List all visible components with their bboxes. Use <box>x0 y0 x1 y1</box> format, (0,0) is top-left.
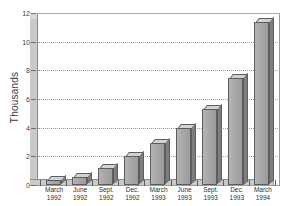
x-axis-tick-mark <box>144 180 145 186</box>
x-axis-tick-mark <box>275 180 276 186</box>
bar <box>176 122 191 185</box>
bar <box>124 150 139 185</box>
y-axis-tick-mark <box>31 99 36 100</box>
x-axis-tick-mark <box>223 180 224 186</box>
y-axis-tick-mark <box>31 70 36 71</box>
x-axis-tick-label: March1994 <box>246 186 280 202</box>
bar-front-face <box>228 78 243 186</box>
bar-side-face <box>269 17 274 184</box>
bar-front-face <box>98 168 113 185</box>
x-axis-tick-mark <box>171 180 172 186</box>
bar-side-face <box>243 73 248 184</box>
y-axis-tick-mark <box>31 42 36 43</box>
bar <box>72 171 87 185</box>
y-axis-tick-mark <box>31 13 36 14</box>
x-axis-tick-label-line: March <box>246 186 280 194</box>
bar-side-face <box>165 138 170 183</box>
y-axis-tick-mark <box>31 156 36 157</box>
bar-front-face <box>254 22 269 185</box>
bar <box>46 174 61 185</box>
x-axis-tick-mark <box>40 180 41 186</box>
bar-front-face <box>176 128 191 185</box>
x-axis-tick-mark <box>66 180 67 186</box>
y-axis-tick-mark <box>31 128 36 129</box>
x-axis-tick-labels: March1992June1992Sept.1992Dec.1992March1… <box>0 186 288 206</box>
bar-front-face <box>124 156 139 185</box>
bar-front-face <box>150 143 165 185</box>
bar <box>150 137 165 185</box>
bar <box>202 103 217 185</box>
bar <box>228 72 243 186</box>
bar-chart: Thousands 024681012 March1992June1992Sep… <box>0 0 288 206</box>
bar-front-face <box>72 177 87 185</box>
bars-layer <box>0 0 288 206</box>
bar-front-face <box>202 109 217 185</box>
x-axis-tick-mark <box>118 180 119 186</box>
x-axis-tick-label-line: 1994 <box>246 194 280 202</box>
bar-side-face <box>217 104 222 184</box>
y-axis-tick-mark <box>31 185 36 186</box>
bar <box>98 162 113 185</box>
bar-side-face <box>191 123 196 184</box>
x-axis-tick-mark <box>249 180 250 186</box>
x-axis-tick-mark <box>92 180 93 186</box>
x-axis-tick-mark <box>197 180 198 186</box>
bar <box>254 16 269 185</box>
